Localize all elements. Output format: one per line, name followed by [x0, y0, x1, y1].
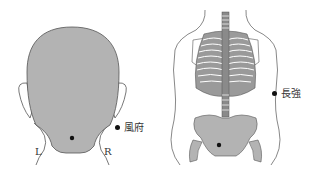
torso-illustration	[171, 10, 280, 165]
fengfu-label: 風府	[115, 123, 144, 133]
left-side-label: L	[35, 147, 42, 157]
fengfu-point	[70, 136, 74, 140]
point-marker-icon	[115, 125, 120, 130]
head-shape	[27, 27, 119, 153]
fengfu-label-text: 風府	[124, 122, 144, 133]
head-illustration	[19, 27, 127, 165]
changqiang-point	[217, 143, 221, 147]
right-side-label: R	[104, 147, 112, 157]
changqiang-label-text: 長強	[281, 88, 301, 99]
changqiang-label: 長強	[272, 89, 301, 99]
point-marker-icon	[272, 91, 277, 96]
